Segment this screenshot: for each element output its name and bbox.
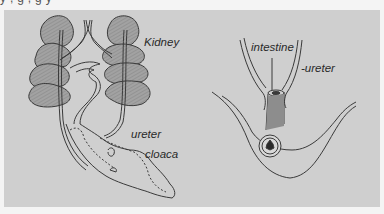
anatomy-illustration xyxy=(0,0,384,214)
label-ureter-left: ureter xyxy=(131,129,161,141)
right-cross-section xyxy=(212,38,356,178)
label-intestine: intestine xyxy=(251,42,294,54)
label-kidney: Kidney xyxy=(144,37,179,49)
left-kidney xyxy=(29,16,74,107)
label-ureter-right: -ureter xyxy=(301,63,335,75)
label-cloaca: cloaca xyxy=(145,149,178,161)
